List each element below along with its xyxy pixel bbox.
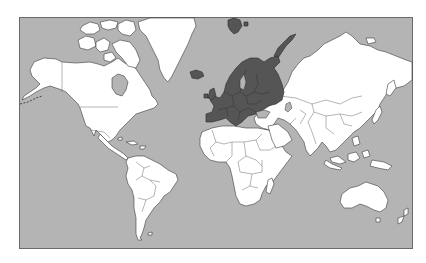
- world-map: World map with Europe highlighted: [0, 0, 426, 263]
- map-svg: [0, 0, 426, 263]
